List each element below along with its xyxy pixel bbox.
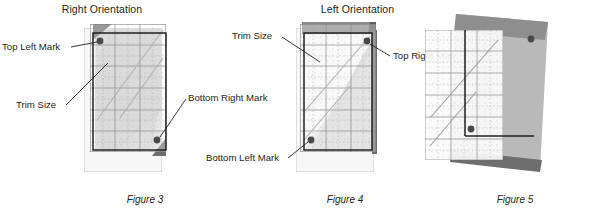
figure-3-label-top-left-mark: Top Left Mark	[2, 41, 60, 52]
figure-5-bottom-left-mark	[468, 126, 475, 133]
figure-4-label-bottom-left-mark: Bottom Left Mark	[206, 152, 279, 163]
figure-4-top-right-mark	[364, 38, 371, 45]
figure-4-bottom-left-mark	[308, 137, 315, 144]
figure-5-top-right-mark	[528, 36, 535, 43]
figure-5-caption: Figure 5	[440, 194, 590, 205]
figure-4-label-trim-size: Trim Size	[232, 30, 272, 41]
figure-5-stage	[400, 0, 594, 215]
figure-3: Right Orientation	[0, 0, 200, 215]
figure-4-stage	[200, 0, 400, 215]
figure-4: Left Orientation	[200, 0, 400, 215]
figure-5-ruler	[425, 30, 503, 160]
figure-sheet: Right Orientation	[0, 0, 594, 215]
figure-3-top-left-mark	[97, 38, 104, 45]
figure-3-label-trim-size: Trim Size	[16, 99, 56, 110]
figure-5: Figure 5	[400, 0, 594, 215]
figure-3-bottom-right-mark	[154, 137, 161, 144]
